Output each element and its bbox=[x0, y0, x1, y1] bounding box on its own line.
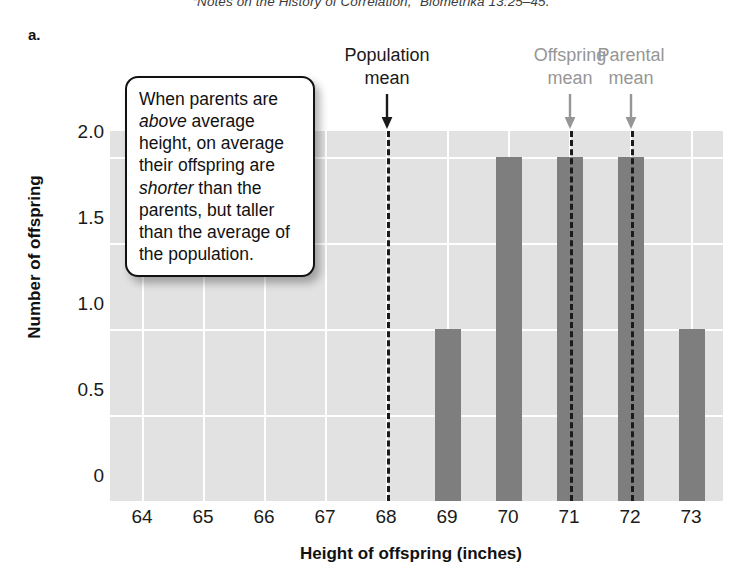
y-axis-ticks: 2.0 1.5 1.0 0.5 0 bbox=[56, 131, 104, 501]
x-tick-label: 65 bbox=[173, 506, 233, 528]
x-axis-label: Height of offspring (inches) bbox=[0, 544, 742, 564]
bar-73 bbox=[679, 329, 705, 501]
y-tick-label: 1.5 bbox=[58, 207, 104, 229]
arrow-parental-mean bbox=[566, 94, 696, 130]
citation-line: “Notes on the History of Correlation,” B… bbox=[0, 0, 742, 9]
y-tick-label: 0.5 bbox=[58, 379, 104, 401]
x-tick-label: 72 bbox=[600, 506, 660, 528]
vline-population-mean bbox=[387, 131, 390, 501]
bar-70 bbox=[496, 157, 522, 501]
x-tick-label: 70 bbox=[478, 506, 538, 528]
x-tick-label: 66 bbox=[234, 506, 294, 528]
callout-text: When parents are above average height, o… bbox=[139, 89, 290, 264]
x-tick-label: 68 bbox=[356, 506, 416, 528]
vline-parental-mean bbox=[631, 131, 634, 501]
y-tick-label: 0 bbox=[58, 465, 104, 487]
annotation-line-1: Parental bbox=[566, 44, 696, 67]
arrow-population-mean bbox=[322, 94, 452, 130]
panel-letter: a. bbox=[28, 26, 41, 43]
annotation-line-2: mean bbox=[322, 67, 452, 90]
vline-offspring-mean bbox=[570, 131, 573, 501]
bar-69 bbox=[435, 329, 461, 501]
x-tick-label: 64 bbox=[112, 506, 172, 528]
x-tick-label: 69 bbox=[417, 506, 477, 528]
annotation-line-2: mean bbox=[566, 67, 696, 90]
annotation-population-mean: Population mean bbox=[322, 44, 452, 89]
annotation-parental-mean: Parental mean bbox=[566, 44, 696, 89]
y-tick-label: 1.0 bbox=[58, 293, 104, 315]
gridline-vertical bbox=[325, 131, 327, 501]
x-tick-label: 67 bbox=[295, 506, 355, 528]
x-tick-label: 71 bbox=[539, 506, 599, 528]
callout-box: When parents are above average height, o… bbox=[125, 76, 315, 277]
y-tick-label: 2.0 bbox=[58, 121, 104, 143]
x-tick-label: 73 bbox=[661, 506, 721, 528]
annotation-line-1: Population bbox=[322, 44, 452, 67]
y-axis-label: Number of offspring bbox=[25, 127, 45, 387]
